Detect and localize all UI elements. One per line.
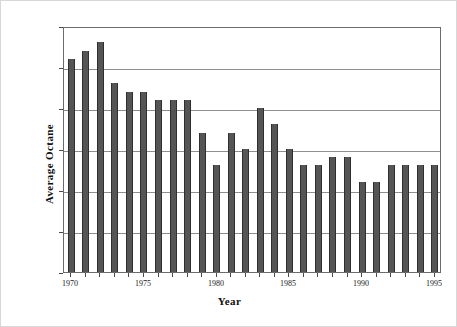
bar <box>402 165 409 272</box>
x-tick-mark <box>216 273 217 277</box>
bar <box>286 149 293 272</box>
bar <box>170 100 177 272</box>
x-tick-mark <box>143 273 144 277</box>
bar <box>97 42 104 272</box>
x-tick-mark <box>172 273 173 277</box>
bar <box>271 124 278 272</box>
bar <box>373 182 380 272</box>
x-tick-mark <box>70 273 71 277</box>
x-tick-mark <box>317 273 318 277</box>
x-tick-mark <box>114 273 115 277</box>
bar <box>228 133 235 272</box>
x-tick-mark <box>332 273 333 277</box>
x-tick-mark <box>347 273 348 277</box>
bar <box>300 165 307 272</box>
x-tick-mark <box>405 273 406 277</box>
x-tick-mark <box>201 273 202 277</box>
x-tick-mark <box>303 273 304 277</box>
bar <box>359 182 366 272</box>
bar <box>388 165 395 272</box>
bar <box>140 92 147 272</box>
x-tick-mark <box>230 273 231 277</box>
bar <box>126 92 133 272</box>
bar <box>184 100 191 272</box>
bar <box>329 157 336 272</box>
bar <box>431 165 438 272</box>
x-axis: 197019751980198519901995 <box>63 273 441 313</box>
x-tick-label: 1975 <box>135 279 151 288</box>
bar-series <box>64 28 440 272</box>
x-axis-title: Year <box>1 295 457 307</box>
x-tick-label: 1980 <box>208 279 224 288</box>
bar <box>344 157 351 272</box>
plot-area <box>63 27 441 273</box>
x-tick-mark <box>99 273 100 277</box>
bar <box>315 165 322 272</box>
x-tick-mark <box>419 273 420 277</box>
x-tick-mark <box>158 273 159 277</box>
x-tick-mark <box>128 273 129 277</box>
bar <box>111 83 118 272</box>
x-tick-mark <box>245 273 246 277</box>
x-tick-label: 1985 <box>280 279 296 288</box>
bar <box>417 165 424 272</box>
x-tick-mark <box>434 273 435 277</box>
x-tick-label: 1970 <box>62 279 78 288</box>
y-axis-title: Average Octane <box>43 123 55 203</box>
x-tick-mark <box>187 273 188 277</box>
x-tick-mark <box>274 273 275 277</box>
x-tick-mark <box>361 273 362 277</box>
bar <box>213 165 220 272</box>
x-tick-label: 1990 <box>353 279 369 288</box>
x-tick-label: 1995 <box>426 279 442 288</box>
chart-figure: 87.588.088.589.089.590.090.5 19701975198… <box>0 0 457 327</box>
x-tick-mark <box>288 273 289 277</box>
bar <box>82 51 89 272</box>
x-tick-mark <box>85 273 86 277</box>
bar <box>155 100 162 272</box>
bar <box>199 133 206 272</box>
bar <box>68 59 75 272</box>
x-tick-mark <box>259 273 260 277</box>
bar <box>242 149 249 272</box>
bar <box>257 108 264 272</box>
x-tick-mark <box>376 273 377 277</box>
x-tick-mark <box>390 273 391 277</box>
